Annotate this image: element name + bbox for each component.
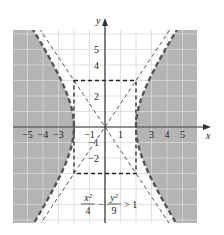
fraction-numerator: y² bbox=[109, 192, 118, 203]
y-axis-arrow-icon bbox=[102, 18, 108, 26]
x-tick-label: −3 bbox=[53, 129, 64, 140]
x-tick-label: 4 bbox=[165, 129, 170, 140]
y-tick-label: 2 bbox=[94, 91, 99, 102]
x-tick-label: 5 bbox=[180, 129, 185, 140]
y-tick-label: 5 bbox=[94, 44, 99, 55]
x-axis-label: x bbox=[205, 130, 211, 141]
x-tick-label: −5 bbox=[22, 129, 33, 140]
y-tick-label: −1 bbox=[88, 137, 99, 148]
x-tick-label: −4 bbox=[38, 129, 49, 140]
y-axis-label: y bbox=[95, 15, 101, 26]
hyperbola-inequality-chart: xy−5−4−3−11345542−1−2x²4−y²9> 1 bbox=[0, 0, 224, 235]
y-tick-label: −2 bbox=[88, 153, 99, 164]
minus-sign: − bbox=[98, 199, 104, 210]
y-tick-label: 4 bbox=[94, 60, 99, 71]
fraction-numerator: x² bbox=[83, 192, 92, 203]
x-tick-label: 3 bbox=[149, 129, 154, 140]
inequality-rhs: > 1 bbox=[124, 199, 137, 210]
fraction-denominator: 9 bbox=[112, 205, 117, 216]
plot-area bbox=[0, 0, 214, 235]
x-tick-label: 1 bbox=[118, 129, 123, 140]
fraction-denominator: 4 bbox=[86, 205, 91, 216]
